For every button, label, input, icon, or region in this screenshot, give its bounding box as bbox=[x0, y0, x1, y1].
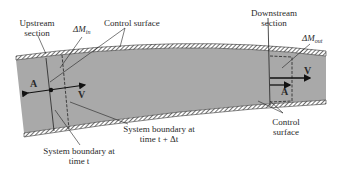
flow-diagram: Upstream section ΔMin Control surface Do… bbox=[0, 0, 346, 172]
label-control-surface-top: Control surface bbox=[104, 18, 160, 28]
label-system-boundary-t-dt: System boundary at time t + Δt bbox=[118, 124, 200, 144]
label-control-surface-bottom: Control surface bbox=[266, 117, 306, 137]
downstream-line2: section bbox=[247, 18, 301, 28]
upstream-line2: section bbox=[14, 28, 60, 38]
system-t-dt-line1: System boundary at bbox=[118, 124, 200, 134]
label-downstream-section: Downstream section bbox=[247, 8, 301, 28]
label-area-right: A bbox=[281, 87, 288, 97]
leader-upstream bbox=[38, 36, 46, 54]
delta-m-out-symbol: ΔM bbox=[302, 33, 315, 43]
label-velocity-right: V bbox=[304, 66, 311, 76]
system-t-line1: System boundary at bbox=[38, 146, 120, 156]
delta-m-in-symbol: ΔM bbox=[73, 24, 86, 34]
downstream-line1: Downstream bbox=[247, 8, 301, 18]
system-t-dt-line2: time t + Δt bbox=[118, 134, 200, 144]
system-t-line2: time t bbox=[38, 156, 120, 166]
delta-m-in-sub: in bbox=[86, 29, 91, 35]
label-upstream-section: Upstream section bbox=[14, 18, 60, 38]
label-delta-m-out: ΔMout bbox=[302, 33, 322, 46]
label-area-left: A bbox=[30, 79, 37, 89]
control-bottom-line1: Control bbox=[266, 117, 306, 127]
delta-m-out-sub: out bbox=[315, 38, 323, 44]
label-velocity-left: V bbox=[78, 90, 85, 100]
label-delta-m-in: ΔMin bbox=[73, 24, 90, 37]
upstream-line1: Upstream bbox=[14, 18, 60, 28]
label-system-boundary-t: System boundary at time t bbox=[38, 146, 120, 166]
section-point bbox=[49, 88, 53, 92]
control-bottom-line2: surface bbox=[266, 127, 306, 137]
